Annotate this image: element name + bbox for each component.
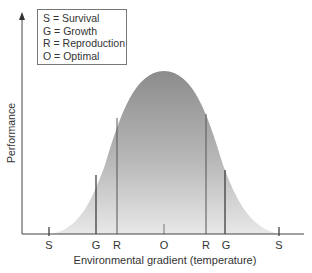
x-axis-title: Environmental gradient (temperature) bbox=[0, 254, 312, 266]
tick-label-survival-right: S bbox=[275, 239, 282, 251]
tick-label-reproduction-right: R bbox=[202, 239, 210, 251]
y-axis-arrow-icon bbox=[19, 12, 25, 20]
legend: S = Survival G = Growth R = Reproduction… bbox=[37, 9, 127, 65]
performance-bell-curve bbox=[52, 71, 279, 234]
tick-label-reproduction-left: R bbox=[113, 239, 121, 251]
tick-label-growth-left: G bbox=[92, 239, 101, 251]
tick-label-survival-left: S bbox=[45, 239, 52, 251]
legend-item-survival: S = Survival bbox=[43, 12, 126, 25]
tick-label-optimal: O bbox=[160, 239, 169, 251]
legend-item-growth: G = Growth bbox=[43, 25, 126, 38]
legend-item-optimal: O = Optimal bbox=[43, 50, 126, 63]
y-axis-title: Performance bbox=[5, 103, 17, 163]
tick-label-growth-right: G bbox=[222, 239, 231, 251]
legend-item-reproduction: R = Reproduction bbox=[43, 37, 126, 50]
